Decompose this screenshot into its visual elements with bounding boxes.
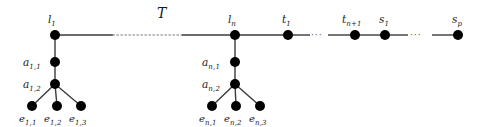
leaf-label-e11: e1,1 (19, 114, 37, 124)
node-an2[interactable] (230, 79, 240, 89)
node-label-t1-sub: 1 (286, 20, 291, 28)
node-en1[interactable] (207, 101, 217, 111)
node-t1[interactable] (283, 30, 293, 40)
node-en3[interactable] (255, 101, 265, 111)
node-label-a11-sub: 1,1 (29, 63, 41, 71)
node-s1[interactable] (380, 30, 390, 40)
node-l1[interactable] (50, 30, 60, 40)
node-label-an1-sub: n,1 (208, 63, 220, 71)
node-an1[interactable] (230, 57, 240, 67)
leaf-label-en2-sub: n,2 (230, 119, 242, 127)
node-label-a12-sub: 1,2 (29, 85, 41, 93)
node-e13[interactable] (76, 101, 86, 111)
node-label-an1: an,1 (202, 57, 220, 68)
ellipsis-t-range: ··· (311, 31, 323, 40)
leaf-label-en1: en,1 (199, 114, 217, 124)
node-label-an2: an,2 (202, 79, 220, 90)
leaf-label-e12-sub: 1,2 (50, 119, 62, 127)
leaf-label-e12: e1,2 (44, 114, 62, 124)
node-label-t1: t1 (282, 14, 291, 25)
tree-name-label: T (157, 6, 166, 20)
node-label-s1: s1 (379, 14, 389, 25)
node-label-an2-sub: n,2 (208, 85, 220, 93)
leaf-label-e13: e1,3 (69, 114, 87, 124)
diagram-canvas (0, 0, 482, 127)
node-label-tn1: tn+1 (342, 14, 362, 25)
tree-diagram: T l1 ln t1 tn+1 s1 sp a1,1 a1,2 e1,1 e1,… (0, 0, 482, 127)
node-label-l1: l1 (48, 14, 56, 25)
leaf-label-en3: en,3 (249, 114, 267, 124)
node-label-l1-sub: 1 (51, 20, 56, 28)
node-label-ln: ln (228, 14, 236, 25)
leaf-label-e13-sub: 1,3 (75, 119, 87, 127)
node-a11[interactable] (50, 57, 60, 67)
leaf-label-e11-sub: 1,1 (25, 119, 37, 127)
node-label-ln-sub: n (231, 20, 236, 28)
node-en2[interactable] (231, 101, 241, 111)
node-label-sp-sub: p (457, 20, 462, 28)
node-a12[interactable] (50, 79, 60, 89)
node-e11[interactable] (27, 101, 37, 111)
node-e12[interactable] (52, 101, 62, 111)
leaf-label-en1-sub: n,1 (205, 119, 217, 127)
node-ln[interactable] (230, 30, 240, 40)
node-label-sp: sp (452, 14, 462, 25)
node-label-s1-sub: 1 (384, 20, 389, 28)
node-label-tn1-sub: n+1 (346, 20, 361, 28)
node-sp[interactable] (453, 30, 463, 40)
ellipsis-s-range: ··· (410, 31, 422, 40)
node-label-a11: a1,1 (23, 57, 41, 68)
node-label-a12: a1,2 (23, 79, 41, 90)
node-tn1[interactable] (350, 30, 360, 40)
leaf-label-en2: en,2 (224, 114, 242, 124)
leaf-label-en3-sub: n,3 (255, 119, 267, 127)
